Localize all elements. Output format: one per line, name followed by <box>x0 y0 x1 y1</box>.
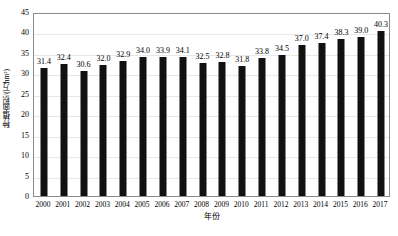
bar-slot: 34.0 <box>133 14 153 196</box>
bar-slot: 32.8 <box>213 14 233 196</box>
bar-slot: 32.4 <box>54 14 74 196</box>
bar[interactable] <box>219 62 226 196</box>
x-axis-tick-label: 2005 <box>135 201 150 209</box>
x-axis-tick-label: 2008 <box>194 201 209 209</box>
bar-slot: 38.3 <box>332 14 352 196</box>
bar-slot: 34.5 <box>272 14 292 196</box>
bar[interactable] <box>239 66 246 196</box>
bar-value-label: 31.8 <box>235 56 249 64</box>
bar[interactable] <box>199 63 206 196</box>
y-axis-tick-labels: 051015202530354045 <box>12 0 32 236</box>
bar[interactable] <box>259 58 266 196</box>
x-axis-tick-labels: 2000200120022003200420052006200720082009… <box>33 199 390 213</box>
y-axis-tick-label: 0 <box>25 193 29 201</box>
bar[interactable] <box>120 61 127 196</box>
bar-value-label: 37.4 <box>315 33 329 41</box>
bar-slot: 32.9 <box>113 14 133 196</box>
y-axis-tick-label: 5 <box>25 173 29 181</box>
bar-slot: 30.6 <box>74 14 94 196</box>
bar-slot: 32.5 <box>193 14 213 196</box>
bar-value-label: 32.4 <box>57 54 71 62</box>
bar-value-label: 33.8 <box>255 48 269 56</box>
plot-area: 31.432.430.632.032.934.033.934.132.532.8… <box>33 13 390 197</box>
bar-value-label: 34.0 <box>136 47 150 55</box>
bar-value-label: 39.0 <box>354 27 368 35</box>
bar-value-label: 30.6 <box>77 61 91 69</box>
x-axis-tick-label: 2009 <box>214 201 229 209</box>
x-axis-tick-label: 2007 <box>174 201 189 209</box>
bar[interactable] <box>378 31 385 196</box>
bar[interactable] <box>40 68 47 196</box>
x-axis-tick-label: 2006 <box>154 201 169 209</box>
y-axis-tick-label: 10 <box>21 152 29 160</box>
x-axis-tick-label: 2000 <box>35 201 50 209</box>
y-axis-tick-label: 45 <box>21 9 29 17</box>
bar[interactable] <box>278 55 285 196</box>
bar-slot: 31.8 <box>232 14 252 196</box>
bar-value-label: 31.4 <box>37 58 51 66</box>
bar-value-label: 38.3 <box>334 29 348 37</box>
x-axis-tick-label: 2002 <box>75 201 90 209</box>
bar[interactable] <box>140 57 147 196</box>
bar[interactable] <box>80 71 87 196</box>
bar-slot: 33.8 <box>252 14 272 196</box>
bar-slot: 39.0 <box>351 14 371 196</box>
bar-slot: 34.1 <box>173 14 193 196</box>
x-axis-tick-label: 2012 <box>273 201 288 209</box>
x-axis-tick-label: 2017 <box>373 201 388 209</box>
bar[interactable] <box>298 45 305 196</box>
bar-value-label: 37.0 <box>295 35 309 43</box>
x-axis-tick-label: 2015 <box>333 201 348 209</box>
y-axis-tick-label: 25 <box>21 91 29 99</box>
x-axis-tick-label: 2004 <box>115 201 130 209</box>
bar[interactable] <box>318 43 325 196</box>
y-axis-tick-label: 35 <box>21 50 29 58</box>
bar-slot: 32.0 <box>94 14 114 196</box>
bar[interactable] <box>179 57 186 196</box>
bar-value-label: 32.0 <box>96 55 110 63</box>
x-axis-tick-label: 2001 <box>55 201 70 209</box>
bar-value-label: 34.1 <box>176 47 190 55</box>
bar-value-label: 32.9 <box>116 51 130 59</box>
bar-value-label: 40.3 <box>374 21 388 29</box>
x-axis-tick-label: 2003 <box>95 201 110 209</box>
bar-slot: 31.4 <box>34 14 54 196</box>
y-axis-title-text: 种植面积/(万hm²) <box>3 69 11 128</box>
bar-value-label: 32.8 <box>215 52 229 60</box>
bar[interactable] <box>338 39 345 196</box>
x-axis-title: 年份 <box>33 213 390 221</box>
bar-value-label: 34.5 <box>275 45 289 53</box>
x-axis-tick-label: 2013 <box>293 201 308 209</box>
y-axis-tick-label: 20 <box>21 111 29 119</box>
x-axis-tick-label: 2016 <box>353 201 368 209</box>
bar-slot: 37.0 <box>292 14 312 196</box>
bar-slot: 40.3 <box>371 14 391 196</box>
y-axis-tick-label: 40 <box>21 29 29 37</box>
bars-layer: 31.432.430.632.032.934.033.934.132.532.8… <box>34 14 389 196</box>
bar[interactable] <box>159 57 166 196</box>
bar-chart: 种植面积/(万hm²) 051015202530354045 31.432.43… <box>0 0 398 236</box>
y-axis-tick-label: 30 <box>21 70 29 78</box>
bar[interactable] <box>60 64 67 196</box>
x-axis-tick-label: 2011 <box>254 201 269 209</box>
bar-slot: 33.9 <box>153 14 173 196</box>
x-axis-tick-label: 2010 <box>234 201 249 209</box>
bar[interactable] <box>358 37 365 196</box>
bar[interactable] <box>100 65 107 196</box>
y-axis-tick-label: 15 <box>21 132 29 140</box>
bar-value-label: 33.9 <box>156 47 170 55</box>
bar-value-label: 32.5 <box>196 53 210 61</box>
x-axis-tick-label: 2014 <box>313 201 328 209</box>
bar-slot: 37.4 <box>312 14 332 196</box>
